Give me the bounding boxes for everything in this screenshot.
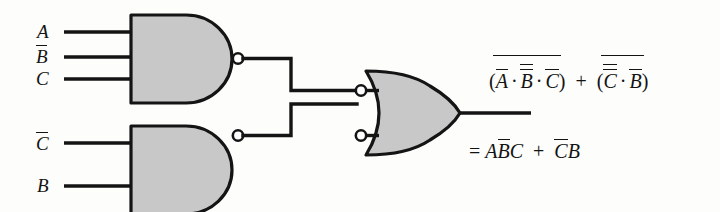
input-label-a: A [37,22,49,41]
and-operator-1: · [508,70,521,92]
input-label-b-not-text: B [36,46,48,66]
literal-c: C [545,69,558,91]
simplified-literal-c-bar: C [554,139,567,161]
literal-b-bar: B [521,64,533,91]
circuit-schematic [0,0,720,212]
or-operator-line-2: + [528,140,549,162]
literal-c-bar: C [603,64,616,91]
wire-upper-nand-to-or [243,59,357,91]
upper-nand-gate-body [131,15,232,103]
simplified-literal-b-bar: B [498,139,510,161]
expression-term-1: (A·B·C) [489,55,565,91]
wire-lower-nand-to-or [243,104,357,136]
input-label-c-not-text: C [36,133,49,153]
paren-open-2: ( [597,70,604,92]
paren-close-2: ) [642,70,649,92]
or-gate-input-bubble-top [356,85,366,95]
literal-a: A [496,69,508,91]
simplified-literal-b: B [568,140,580,162]
input-label-a-text: A [37,21,49,42]
paren-close-1: ) [559,70,566,92]
simplified-literal-c: C [510,140,523,162]
literal-b: B [629,69,641,91]
input-label-c-not: C [36,133,49,153]
or-gate-input-bubble-bottom [356,130,366,140]
and-operator-3: · [617,70,630,92]
simplified-term-1: ABC [485,139,523,161]
expression-term-2: (C·B) [597,55,649,91]
input-label-b: B [37,176,49,195]
lower-nand-gate-body [131,126,232,212]
input-label-c: C [36,69,49,88]
or-operator-line-1: + [570,70,591,92]
logic-circuit-figure: A B C C B (A·B·C) + (C·B) = ABC + CB [0,0,720,212]
output-or-gate-body [366,71,460,155]
simplified-term-2: CB [554,139,580,161]
equals-sign: = [469,140,480,162]
input-label-b-not: B [36,46,48,66]
output-expression-line-2: = ABC + CB [469,139,580,161]
input-label-c-text: C [36,68,49,89]
output-expression-line-1: (A·B·C) + (C·B) [489,55,648,91]
simplified-literal-a: A [485,140,497,162]
paren-open-1: ( [489,70,496,92]
input-label-b-text: B [37,175,49,196]
and-operator-2: · [533,70,546,92]
